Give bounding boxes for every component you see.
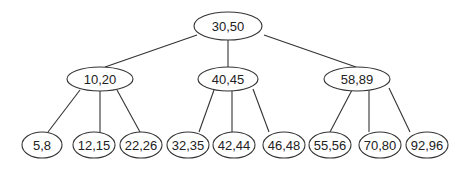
node-label: 70,80 bbox=[364, 138, 397, 153]
tree-node-l3: 22,26 bbox=[120, 132, 162, 158]
node-label: 10,20 bbox=[84, 72, 117, 87]
edge-n3-l9 bbox=[389, 88, 410, 132]
node-label: 5,8 bbox=[33, 138, 51, 153]
edge-n1-l1 bbox=[48, 90, 80, 132]
tree-node-l2: 12,15 bbox=[73, 132, 115, 158]
tree-node-n1: 10,20 bbox=[67, 67, 133, 91]
tree-node-l9: 92,96 bbox=[406, 132, 448, 158]
tree-node-l1: 5,8 bbox=[22, 132, 62, 158]
edge-n2-l6 bbox=[253, 89, 269, 132]
node-label: 46,48 bbox=[268, 138, 301, 153]
tree-node-n3: 58,89 bbox=[324, 67, 390, 91]
tree-node-l8: 70,80 bbox=[359, 132, 401, 158]
tree-node-l5: 42,44 bbox=[213, 132, 255, 158]
node-label: 32,35 bbox=[172, 138, 205, 153]
node-label: 58,89 bbox=[341, 72, 374, 87]
edge-n1-l3 bbox=[117, 90, 140, 132]
node-label: 30,50 bbox=[212, 19, 245, 34]
tree-node-l7: 55,56 bbox=[309, 132, 351, 158]
node-label: 40,45 bbox=[212, 72, 245, 87]
tree-node-l6: 46,48 bbox=[263, 132, 305, 158]
tree-node-root: 30,50 bbox=[194, 12, 262, 40]
node-label: 22,26 bbox=[125, 138, 158, 153]
node-label: 55,56 bbox=[314, 138, 347, 153]
edge-root-n3 bbox=[264, 35, 356, 67]
b-tree-diagram: 30,5010,2040,4558,895,812,1522,2632,3542… bbox=[0, 0, 457, 171]
edge-root-n1 bbox=[105, 35, 197, 67]
node-label: 42,44 bbox=[218, 138, 251, 153]
tree-node-l4: 32,35 bbox=[167, 132, 209, 158]
node-label: 12,15 bbox=[78, 138, 111, 153]
edge-n3-l7 bbox=[330, 90, 352, 132]
node-label: 92,96 bbox=[411, 138, 444, 153]
tree-nodes: 30,5010,2040,4558,895,812,1522,2632,3542… bbox=[22, 12, 448, 158]
edge-n2-l4 bbox=[199, 90, 214, 132]
tree-node-n2: 40,45 bbox=[198, 67, 258, 91]
